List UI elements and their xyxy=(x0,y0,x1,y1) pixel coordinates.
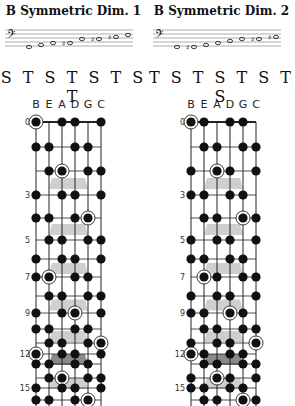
note-dot xyxy=(83,373,92,382)
note-dot xyxy=(44,213,53,222)
note-dot xyxy=(31,142,40,151)
note-dot xyxy=(57,291,66,300)
note-dot xyxy=(238,254,247,263)
note-dot xyxy=(96,291,105,300)
string-label: B xyxy=(187,98,195,111)
note-dot xyxy=(251,291,260,300)
note-dot xyxy=(238,190,247,199)
position-shade xyxy=(204,224,243,235)
fret-number: 7 xyxy=(25,273,30,282)
note-dot xyxy=(31,359,40,368)
note-dot xyxy=(225,383,234,392)
note-dot xyxy=(251,395,260,404)
string-label: D xyxy=(71,98,79,111)
note-dot xyxy=(212,142,221,151)
note-dot xyxy=(186,235,195,244)
root-note-dot xyxy=(238,395,247,404)
note-dot xyxy=(70,395,79,404)
note-dot xyxy=(70,142,79,151)
string-label: C xyxy=(252,98,260,111)
note-dot xyxy=(225,117,234,126)
note-dot xyxy=(212,359,221,368)
position-shade xyxy=(49,331,88,342)
note-dot xyxy=(199,324,208,333)
note-dot xyxy=(70,349,79,358)
note-dot xyxy=(251,235,260,244)
note-dot xyxy=(199,142,208,151)
root-note-dot xyxy=(70,308,79,317)
fret-number: 15 xyxy=(175,384,185,393)
note-dot xyxy=(83,324,92,333)
root-note-dot xyxy=(212,166,221,175)
note-dot xyxy=(238,324,247,333)
note-dot xyxy=(186,190,195,199)
position-shade xyxy=(204,354,243,365)
note-dot xyxy=(225,373,234,382)
note-dot xyxy=(238,117,247,126)
note-dot xyxy=(70,324,79,333)
note-dot xyxy=(57,338,66,347)
fretboard-diagram: BEADGC035791215 xyxy=(148,0,295,406)
note-dot xyxy=(238,359,247,368)
note-dot xyxy=(96,308,105,317)
string-label: A xyxy=(58,98,66,111)
note-dot xyxy=(31,395,40,404)
position-shade xyxy=(204,300,243,311)
note-dot xyxy=(199,190,208,199)
fret-number: 15 xyxy=(20,384,30,393)
note-dot xyxy=(70,272,79,281)
position-shade xyxy=(204,331,243,342)
fret-number: 5 xyxy=(180,236,185,245)
fret-number: 7 xyxy=(180,273,185,282)
note-dot xyxy=(96,235,105,244)
note-dot xyxy=(251,324,260,333)
note-dot xyxy=(186,383,195,392)
panel-dim-2: B Symmetric Dim. 2 𝄢♯♯♯ T S T S T S T S … xyxy=(148,0,295,406)
note-dot xyxy=(31,272,40,281)
note-dot xyxy=(70,117,79,126)
root-note-dot xyxy=(83,213,92,222)
note-dot xyxy=(96,373,105,382)
note-dot xyxy=(199,117,208,126)
position-shade xyxy=(204,263,243,274)
root-note-dot xyxy=(251,338,260,347)
note-dot xyxy=(96,254,105,263)
note-dot xyxy=(212,291,221,300)
panel-dim-1: B Symmetric Dim. 1 𝄢♯♯♯ S T S T S T S T … xyxy=(0,0,147,406)
string-label: E xyxy=(46,98,53,111)
note-dot xyxy=(186,338,195,347)
note-dot xyxy=(225,349,234,358)
root-note-dot xyxy=(199,272,208,281)
note-dot xyxy=(96,190,105,199)
note-dot xyxy=(238,308,247,317)
note-dot xyxy=(251,373,260,382)
position-shade xyxy=(204,178,243,189)
note-dot xyxy=(96,383,105,392)
note-dot xyxy=(70,190,79,199)
string-label: B xyxy=(32,98,40,111)
note-dot xyxy=(186,373,195,382)
fret-number: 12 xyxy=(175,350,185,359)
note-dot xyxy=(57,117,66,126)
note-dot xyxy=(31,308,40,317)
note-dot xyxy=(199,349,208,358)
note-dot xyxy=(238,272,247,281)
note-dot xyxy=(96,117,105,126)
note-dot xyxy=(44,291,53,300)
note-dot xyxy=(199,383,208,392)
root-note-dot xyxy=(44,272,53,281)
note-dot xyxy=(238,349,247,358)
root-note-dot xyxy=(186,117,195,126)
note-dot xyxy=(83,291,92,300)
note-dot xyxy=(70,254,79,263)
note-dot xyxy=(199,254,208,263)
position-shade xyxy=(49,178,88,189)
note-dot xyxy=(238,383,247,392)
note-dot xyxy=(44,142,53,151)
note-dot xyxy=(225,338,234,347)
note-dot xyxy=(83,359,92,368)
fret-number: 9 xyxy=(180,309,185,318)
note-dot xyxy=(44,324,53,333)
note-dot xyxy=(186,291,195,300)
note-dot xyxy=(44,338,53,347)
